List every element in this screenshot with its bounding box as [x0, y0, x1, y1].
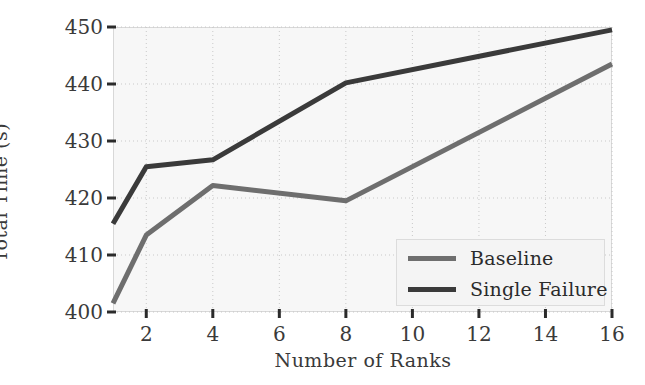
y-axis-title-text: Total Time (s): [0, 123, 11, 262]
legend-label-single-failure: Single Failure: [470, 278, 608, 300]
y-axis-title: Total Time (s): [0, 0, 48, 385]
x-tick-label: 12: [459, 324, 499, 344]
legend-swatch-single-failure: [408, 287, 456, 292]
y-tick-label: 450: [47, 17, 103, 37]
chart-figure: Total Time (s) 400410420430440450 246810…: [0, 0, 645, 385]
x-tick-label: 16: [592, 324, 632, 344]
y-tick-label: 440: [47, 74, 103, 94]
legend-item-baseline[interactable]: Baseline: [397, 242, 606, 274]
y-tick-label: 420: [47, 188, 103, 208]
x-tick-label: 2: [126, 324, 166, 344]
legend-label-baseline: Baseline: [470, 247, 554, 269]
x-tick-label: 6: [259, 324, 299, 344]
x-tick-label: 10: [392, 324, 432, 344]
y-tick-label: 400: [47, 302, 103, 322]
x-tick-label: 4: [193, 324, 233, 344]
x-axis-title: Number of Ranks: [113, 349, 613, 371]
x-tick-label: 8: [326, 324, 366, 344]
chart-legend: Baseline Single Failure: [396, 239, 605, 306]
y-tick-label: 430: [47, 131, 103, 151]
legend-swatch-baseline: [408, 256, 456, 261]
legend-item-single-failure[interactable]: Single Failure: [397, 273, 606, 305]
x-tick-label: 14: [525, 324, 565, 344]
y-tick-label: 410: [47, 245, 103, 265]
